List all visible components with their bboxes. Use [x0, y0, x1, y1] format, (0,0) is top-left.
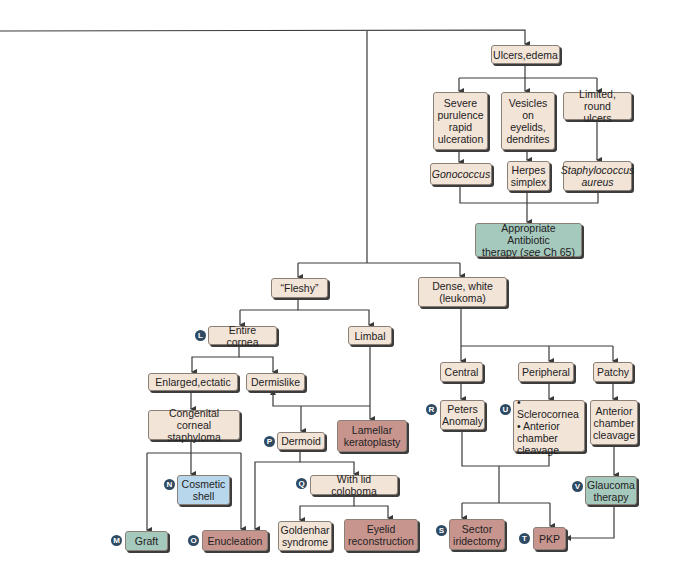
node-peters-anomaly: Peters Anomaly	[440, 400, 485, 430]
antibiotic-chapter: Ch 65)	[540, 246, 574, 258]
node-graft: Graft	[125, 531, 168, 551]
flowchart: Ulcers,edema Severe purulence rapid ulce…	[0, 0, 679, 588]
node-enlarged-ectatic: Enlarged,ectatic	[148, 373, 238, 391]
badge-s: S	[436, 525, 447, 536]
badge-u: U	[500, 404, 511, 415]
node-patchy: Patchy	[593, 362, 633, 382]
node-fleshy: “Fleshy”	[271, 278, 328, 298]
badge-l: L	[195, 330, 206, 341]
node-pkp: PKP	[533, 527, 566, 550]
node-glaucoma-therapy: Glaucoma therapy	[585, 476, 637, 505]
node-peripheral: Peripheral	[518, 362, 574, 382]
node-anterior-chamber-cleavage: Anterior chamber cleavage	[590, 400, 638, 445]
node-entire-cornea: Entire cornea	[208, 326, 277, 345]
node-antibiotic-therapy: Appropriate Antibiotic therapy (see Ch 6…	[475, 223, 582, 257]
badge-v: V	[572, 481, 583, 492]
node-congenital-corneal-staphyloma: Congenital corneal staphyloma	[148, 410, 240, 440]
antibiotic-line-2: therapy (see Ch 65)	[482, 246, 575, 258]
node-sclerocornea-acc: • Sclerocornea • Anterior chamber cleava…	[513, 400, 585, 452]
antibiotic-see: see	[524, 246, 541, 258]
antibiotic-text: therapy (	[482, 246, 523, 258]
badge-n: N	[164, 479, 175, 490]
badge-q: Q	[296, 478, 307, 489]
node-limbal: Limbal	[348, 326, 392, 345]
node-gonococcus: Gonococcus	[430, 163, 492, 185]
node-enucleation: Enucleation	[202, 530, 268, 551]
node-lamellar-keratoplasty: Lamellar keratoplasty	[337, 420, 407, 452]
node-dermoid: Dermoid	[277, 432, 325, 450]
node-goldenhar-syndrome: Goldenhar syndrome	[278, 521, 332, 551]
node-dense-white-leukoma: Dense, white (leukoma)	[418, 277, 507, 307]
badge-p: P	[264, 436, 275, 447]
badge-t: T	[519, 533, 530, 544]
node-severe-purulence: Severe purulence rapid ulceration	[433, 92, 488, 150]
node-ulcers-edema: Ulcers,edema	[491, 45, 560, 64]
node-limited-round-ulcers: Limited, round ulcers	[563, 92, 632, 120]
node-central: Central	[440, 362, 483, 382]
badge-o: O	[188, 535, 199, 546]
node-with-lid-coloboma: With lid coloboma	[310, 475, 398, 495]
node-sector-iridectomy: Sector iridectomy	[449, 519, 505, 550]
node-vesicles: Vesicles on eyelids, dendrites	[501, 92, 555, 150]
badge-m: M	[111, 535, 122, 546]
node-cosmetic-shell: Cosmetic shell	[177, 475, 230, 505]
node-staphylococcus-aureus: Staphylococcus aureus	[563, 161, 632, 191]
node-eyelid-reconstruction: Eyelid reconstruction	[344, 519, 418, 551]
node-herpes-simplex: Herpes simplex	[507, 161, 550, 191]
badge-r: R	[426, 404, 437, 415]
antibiotic-line-1: Appropriate Antibiotic	[479, 222, 578, 246]
node-dermislike: Dermislike	[246, 373, 305, 391]
